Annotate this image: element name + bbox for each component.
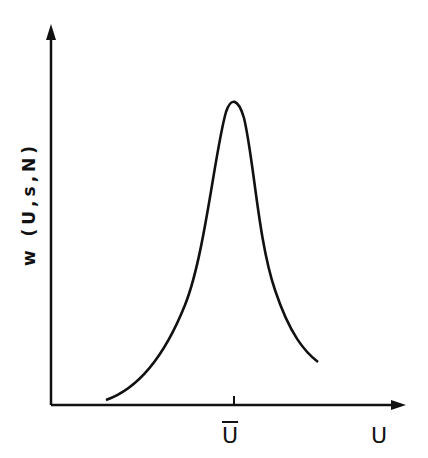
x-axis-label: U	[371, 423, 387, 448]
y-axis-label: w (U,s,N)	[19, 142, 39, 266]
x-tick-label-ubar: U	[222, 423, 238, 448]
y-axis-arrow-icon	[46, 24, 56, 40]
chart-canvas	[0, 0, 428, 458]
x-axis-arrow-icon	[391, 400, 406, 410]
distribution-curve	[106, 102, 318, 400]
